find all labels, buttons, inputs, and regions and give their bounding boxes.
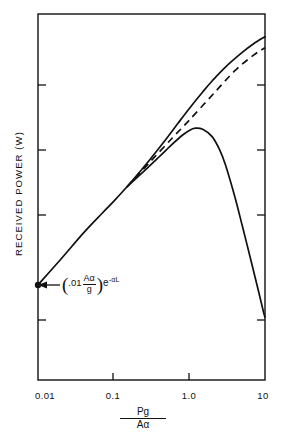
plot-frame: [38, 14, 265, 380]
annotation-lead-value: .01: [68, 277, 81, 288]
y-axis-label: RECEIVED POWER (W): [13, 104, 24, 284]
x-axis-label: Pg Aα: [120, 406, 166, 430]
origin-point-annotation: (.01Aαg)e-αL: [62, 274, 120, 295]
annotation-fraction-denominator: g: [83, 285, 96, 295]
annotation-fraction: Aαg: [83, 274, 96, 295]
annotation-arrow: [38, 282, 60, 289]
x-axis-ticks: [113, 373, 189, 380]
upper-solid-curve: [38, 37, 265, 285]
x-axis-label-numerator: Pg: [120, 406, 166, 419]
x-tick-label-3: 10: [248, 390, 278, 401]
lower-solid-peaked-curve: [127, 128, 265, 317]
x-tick-label-1: 0.1: [95, 390, 131, 401]
x-tick-label-0: 0.01: [25, 390, 65, 401]
x-axis-label-denominator: Aα: [120, 419, 166, 431]
annotation-exponent: -αL: [109, 276, 120, 283]
origin-point-marker: [35, 282, 41, 288]
dashed-asymptote-line: [127, 48, 265, 187]
figure-container: RECEIVED POWER (W) 0.01 0.1 1.0 10: [0, 0, 282, 447]
chart-plot-area: [0, 0, 282, 447]
x-tick-label-2: 1.0: [171, 390, 207, 401]
